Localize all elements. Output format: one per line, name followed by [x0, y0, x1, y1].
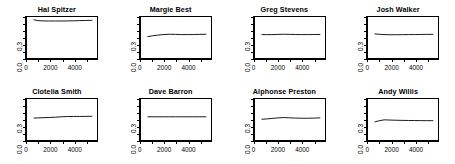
- x-axis-tick: [379, 59, 380, 62]
- panel-title: Andy Willis: [341, 87, 455, 96]
- panel-title: Clotelia Smith: [0, 87, 114, 96]
- panel-title: Greg Stevens: [228, 5, 342, 14]
- x-axis-tick-label: 2000: [271, 146, 285, 153]
- x-axis: [254, 141, 326, 146]
- x-axis-tick-label: 0: [138, 146, 142, 153]
- x-axis-tick: [416, 141, 417, 144]
- x-axis-tick: [75, 59, 76, 62]
- x-axis-tick-label: 2000: [43, 64, 57, 71]
- x-axis-tick: [428, 141, 429, 144]
- x-axis-tick-label: 2000: [157, 146, 171, 153]
- x-axis-tick: [201, 59, 202, 62]
- x-axis-tick: [152, 59, 153, 62]
- x-axis-tick-label: 0: [252, 146, 256, 153]
- panel-title: Hal Spitzer: [0, 5, 114, 14]
- x-axis: [367, 141, 439, 146]
- x-axis-tick: [87, 141, 88, 144]
- data-series-line: [34, 20, 92, 21]
- chart-panel: Greg Stevens0.00.3020004000: [228, 0, 342, 82]
- x-axis-tick: [266, 59, 267, 62]
- series-line-plot: [26, 16, 98, 59]
- x-axis-tick: [392, 141, 393, 144]
- x-axis-tick: [254, 141, 255, 144]
- series-line-plot: [254, 16, 326, 59]
- x-axis-tick: [164, 141, 165, 144]
- panel-title: Alphonse Preston: [228, 87, 342, 96]
- x-axis-tick: [176, 141, 177, 144]
- x-axis-tick: [278, 141, 279, 144]
- x-axis-tick: [201, 141, 202, 144]
- series-line-plot: [140, 98, 212, 141]
- x-axis-tick-label: 2000: [43, 146, 57, 153]
- x-axis-tick: [266, 141, 267, 144]
- y-axis-tick-label: 0.0: [243, 141, 250, 159]
- data-series-line: [34, 116, 92, 118]
- series-line-plot: [26, 98, 98, 141]
- x-axis-tick: [428, 59, 429, 62]
- data-series-line: [375, 120, 433, 122]
- series-line-plot: [254, 98, 326, 141]
- x-axis-tick: [176, 59, 177, 62]
- chart-panel: Alphonse Preston0.00.3020004000: [228, 82, 342, 164]
- x-axis-tick: [302, 59, 303, 62]
- x-axis-tick-label: 0: [24, 146, 28, 153]
- x-axis-tick-label: 0: [365, 146, 369, 153]
- y-axis-tick-label: 0.3: [16, 38, 23, 56]
- x-axis-tick: [140, 141, 141, 144]
- data-series-line: [261, 118, 319, 120]
- x-axis-tick-label: 4000: [181, 146, 195, 153]
- data-series-line: [375, 34, 433, 35]
- x-axis-tick-label: 2000: [385, 64, 399, 71]
- series-line-plot: [140, 16, 212, 59]
- x-axis-tick: [63, 141, 64, 144]
- panel-title: Dave Barron: [114, 87, 228, 96]
- x-axis-tick: [278, 59, 279, 62]
- x-axis-tick-label: 4000: [295, 64, 309, 71]
- x-axis-tick-label: 0: [365, 64, 369, 71]
- series-line-plot: [367, 98, 439, 141]
- y-axis-tick-label: 0.0: [129, 59, 136, 77]
- x-axis-tick: [38, 141, 39, 144]
- y-axis-tick-label: 0.0: [357, 141, 364, 159]
- x-axis-tick: [50, 141, 51, 144]
- x-axis-tick-label: 0: [24, 64, 28, 71]
- x-axis-tick: [152, 141, 153, 144]
- x-axis-tick: [367, 59, 368, 62]
- x-axis: [367, 59, 439, 64]
- x-axis: [26, 141, 98, 146]
- x-axis-tick: [164, 59, 165, 62]
- chart-panel: Andy Willis0.00.3020004000: [341, 82, 455, 164]
- x-axis: [140, 59, 212, 64]
- x-axis-tick: [87, 59, 88, 62]
- small-multiples-figure: Hal Spitzer0.00.3020004000Margie Best0.0…: [0, 0, 455, 164]
- y-axis-tick-label: 0.0: [129, 141, 136, 159]
- chart-panel: Josh Walker0.00.3020004000: [341, 0, 455, 82]
- x-axis-tick: [315, 141, 316, 144]
- x-axis-tick: [26, 59, 27, 62]
- x-axis-tick-label: 4000: [68, 64, 82, 71]
- x-axis-tick: [315, 59, 316, 62]
- y-axis-tick-label: 0.3: [357, 120, 364, 138]
- x-axis-tick-label: 0: [252, 64, 256, 71]
- x-axis-tick: [392, 59, 393, 62]
- x-axis: [254, 59, 326, 64]
- x-axis-tick: [75, 141, 76, 144]
- x-axis-tick: [189, 59, 190, 62]
- x-axis-tick: [140, 59, 141, 62]
- y-axis-tick-label: 0.3: [129, 38, 136, 56]
- y-axis-tick-label: 0.0: [243, 59, 250, 77]
- x-axis: [140, 141, 212, 146]
- y-axis-tick-label: 0.3: [357, 38, 364, 56]
- x-axis-tick: [189, 141, 190, 144]
- x-axis-tick: [290, 141, 291, 144]
- y-axis-tick-label: 0.3: [16, 120, 23, 138]
- x-axis-tick: [63, 59, 64, 62]
- x-axis-tick: [379, 141, 380, 144]
- y-axis-tick-label: 0.3: [243, 120, 250, 138]
- x-axis-tick-label: 2000: [157, 64, 171, 71]
- x-axis-tick-label: 0: [138, 64, 142, 71]
- chart-panel: Dave Barron0.00.3020004000: [114, 82, 228, 164]
- x-axis-tick: [416, 59, 417, 62]
- x-axis-tick-label: 4000: [295, 146, 309, 153]
- x-axis-tick-label: 4000: [181, 64, 195, 71]
